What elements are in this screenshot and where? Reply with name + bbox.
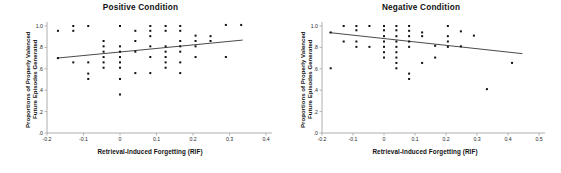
data-point bbox=[447, 46, 449, 48]
data-point bbox=[179, 51, 181, 53]
data-point bbox=[383, 35, 385, 37]
data-point bbox=[421, 35, 423, 37]
data-point bbox=[225, 56, 227, 58]
data-point bbox=[134, 30, 136, 32]
data-point bbox=[408, 25, 410, 27]
y-tick-label: .0 bbox=[39, 130, 43, 136]
x-tick-label: 0.4 bbox=[504, 136, 511, 142]
data-point bbox=[355, 41, 357, 43]
data-point bbox=[179, 40, 181, 42]
regression-line bbox=[57, 40, 242, 58]
data-point bbox=[119, 25, 121, 27]
data-point bbox=[179, 61, 181, 63]
data-point bbox=[486, 88, 488, 90]
data-point bbox=[119, 56, 121, 58]
data-point bbox=[179, 72, 181, 74]
x-tick-label: 0 bbox=[119, 136, 122, 142]
data-point bbox=[119, 61, 121, 63]
y-tick-label: .8 bbox=[39, 44, 43, 50]
data-point bbox=[134, 72, 136, 74]
data-point bbox=[395, 35, 397, 37]
data-point bbox=[119, 78, 121, 80]
data-point bbox=[460, 45, 462, 47]
x-tick-label: 0.3 bbox=[473, 136, 480, 142]
data-point bbox=[511, 62, 513, 64]
y-tick-label: 1.0 bbox=[311, 23, 318, 29]
data-point bbox=[103, 45, 105, 47]
data-point bbox=[149, 25, 151, 27]
x-tick-label: 0.2 bbox=[189, 136, 196, 142]
data-point bbox=[165, 67, 167, 69]
data-point bbox=[408, 78, 410, 80]
y-tick-label: .6 bbox=[314, 66, 318, 72]
data-point bbox=[57, 30, 59, 32]
axis-lines bbox=[322, 22, 545, 133]
data-point bbox=[395, 25, 397, 27]
data-point bbox=[149, 35, 151, 37]
data-point bbox=[179, 30, 181, 32]
data-point bbox=[179, 25, 181, 27]
x-tick-label: 0.3 bbox=[226, 136, 233, 142]
data-point bbox=[421, 62, 423, 64]
x-tick-label: 0.1 bbox=[153, 136, 160, 142]
data-point bbox=[165, 51, 167, 53]
data-point bbox=[119, 67, 121, 69]
data-point bbox=[434, 57, 436, 59]
data-point bbox=[103, 61, 105, 63]
x-tick-label: -0.2 bbox=[43, 136, 52, 142]
data-point bbox=[355, 46, 357, 48]
data-point bbox=[395, 41, 397, 43]
data-point bbox=[434, 45, 436, 47]
data-point bbox=[225, 24, 227, 26]
data-point bbox=[383, 51, 385, 53]
x-tick-label: -0.1 bbox=[79, 136, 88, 142]
data-point bbox=[87, 25, 89, 27]
data-point bbox=[72, 61, 74, 63]
x-axis-label-right: Retrieval-Induced Forgetting (RIF) bbox=[299, 148, 551, 155]
data-point bbox=[165, 61, 167, 63]
y-tick-label: .6 bbox=[39, 66, 43, 72]
data-point bbox=[165, 30, 167, 32]
data-point bbox=[103, 67, 105, 69]
x-tick-label: 0.1 bbox=[411, 136, 418, 142]
data-point bbox=[408, 73, 410, 75]
data-point bbox=[421, 31, 423, 33]
data-point bbox=[210, 35, 212, 37]
data-point bbox=[103, 56, 105, 58]
data-point bbox=[368, 46, 370, 48]
x-tick-label: 0.4 bbox=[262, 136, 269, 142]
data-point bbox=[330, 67, 332, 69]
y-tick-label: .4 bbox=[39, 87, 43, 93]
data-point bbox=[368, 25, 370, 27]
data-point bbox=[87, 73, 89, 75]
data-point bbox=[355, 25, 357, 27]
data-point bbox=[165, 56, 167, 58]
x-tick-label: 0.2 bbox=[442, 136, 449, 142]
x-tick-label: -0.1 bbox=[349, 136, 358, 142]
data-point bbox=[447, 41, 449, 43]
data-point bbox=[395, 57, 397, 59]
data-point bbox=[103, 40, 105, 42]
data-point bbox=[195, 56, 197, 58]
data-point bbox=[408, 30, 410, 32]
data-point bbox=[72, 25, 74, 27]
data-point bbox=[134, 40, 136, 42]
y-tick-label: .2 bbox=[39, 109, 43, 115]
data-point bbox=[447, 25, 449, 27]
data-point bbox=[383, 29, 385, 31]
data-point bbox=[395, 67, 397, 69]
data-point bbox=[408, 46, 410, 48]
data-point bbox=[460, 30, 462, 32]
data-point bbox=[119, 51, 121, 53]
data-point bbox=[408, 41, 410, 43]
data-point bbox=[343, 25, 345, 27]
data-point bbox=[87, 78, 89, 80]
y-tick-label: .8 bbox=[314, 44, 318, 50]
data-point bbox=[87, 61, 89, 63]
panel-negative-condition: Negative Condition Proportions of Proper… bbox=[281, 0, 561, 173]
data-point bbox=[395, 46, 397, 48]
y-tick-label: .2 bbox=[314, 109, 318, 115]
data-point bbox=[330, 31, 332, 33]
data-point bbox=[210, 40, 212, 42]
regression-line bbox=[330, 33, 522, 54]
